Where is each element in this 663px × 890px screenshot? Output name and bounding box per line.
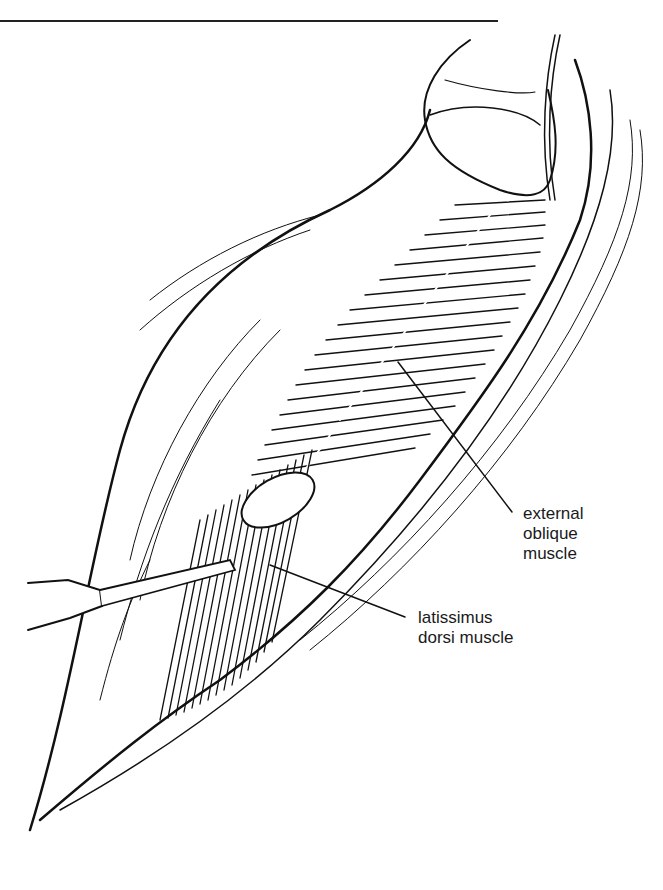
retracted-flap [424,40,555,195]
label-line: dorsi muscle [418,628,513,648]
fascia-incision-dashes [305,215,490,470]
label-line: latissimus [418,608,513,628]
outer-skin-edge [60,90,613,810]
label-latissimus-dorsi-muscle: latissimus dorsi muscle [418,608,513,648]
surgical-instrument [28,560,235,630]
label-line: external [523,504,583,524]
label-line: muscle [523,544,583,564]
oval-structure [232,461,323,539]
anatomy-illustration [0,0,663,890]
label-line: oblique [523,524,583,544]
outer-flap-outline [30,110,430,830]
flap-texture [100,215,320,700]
outer-skin-edge-3 [310,130,643,650]
label-external-oblique-muscle: external oblique muscle [523,504,583,564]
